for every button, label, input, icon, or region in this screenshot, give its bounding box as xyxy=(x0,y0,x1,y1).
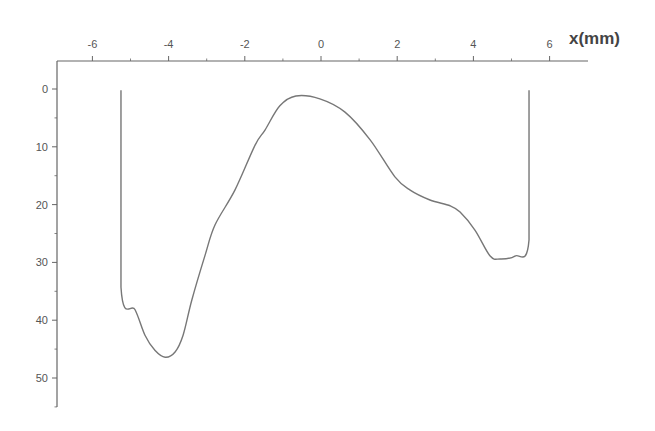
x-tick-label: -2 xyxy=(240,38,250,50)
y-tick-label: 20 xyxy=(36,199,48,211)
x-axis-title: x(mm) xyxy=(569,29,620,48)
profile-curve xyxy=(121,90,529,357)
y-tick-label: 10 xyxy=(36,141,48,153)
x-tick-label: 2 xyxy=(394,38,400,50)
y-axis: 01020304050 xyxy=(36,61,57,407)
x-axis: -6-4-20246 xyxy=(57,38,588,61)
x-tick-label: -4 xyxy=(164,38,174,50)
y-tick-label: 0 xyxy=(42,83,48,95)
y-tick-label: 50 xyxy=(36,372,48,384)
y-tick-label: 30 xyxy=(36,256,48,268)
y-tick-label: 40 xyxy=(36,314,48,326)
x-tick-label: -6 xyxy=(88,38,98,50)
profile-chart: -6-4-20246 01020304050 x(mm) xyxy=(0,0,655,431)
x-tick-label: 6 xyxy=(547,38,553,50)
x-tick-label: 0 xyxy=(318,38,324,50)
x-tick-label: 4 xyxy=(470,38,476,50)
